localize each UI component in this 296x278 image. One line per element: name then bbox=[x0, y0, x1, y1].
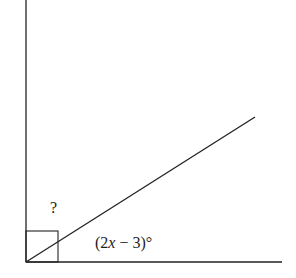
right-angle-marker bbox=[26, 231, 58, 262]
angle-diagram: ? (2x − 3)° bbox=[0, 0, 296, 278]
known-angle-label: (2x − 3)° bbox=[95, 234, 152, 252]
unknown-angle-label: ? bbox=[50, 199, 57, 216]
